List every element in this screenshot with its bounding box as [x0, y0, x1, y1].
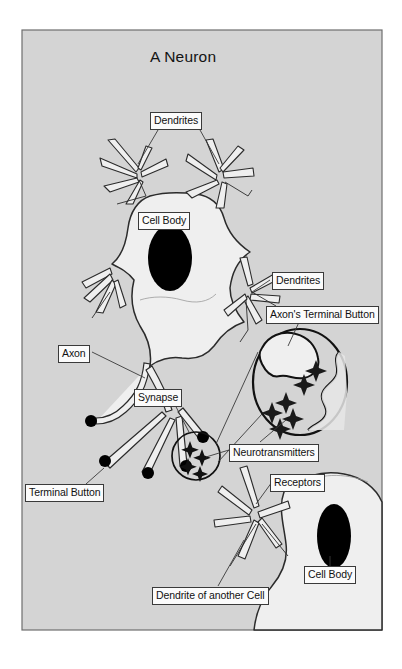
page-title: A Neuron — [150, 48, 216, 66]
other-nucleus — [317, 504, 351, 568]
label-cell-body-main: Cell Body — [138, 212, 190, 230]
terminal-button-dot — [142, 467, 154, 479]
label-dendrites-top: Dendrites — [150, 112, 202, 130]
terminal-button-dot — [99, 455, 111, 467]
label-cell-body-other: Cell Body — [304, 566, 356, 584]
neuron-diagram-figure: A Neuron Dendrites Cell Body Dendrites A… — [0, 0, 402, 669]
terminal-button-dot — [85, 415, 97, 427]
label-axons-terminal-button: Axon's Terminal Button — [266, 306, 379, 324]
main-nucleus — [148, 225, 192, 291]
label-terminal-button: Terminal Button — [25, 484, 104, 502]
label-dendrite-another-cell: Dendrite of another Cell — [152, 587, 269, 605]
label-synapse: Synapse — [134, 389, 182, 407]
label-receptors: Receptors — [270, 474, 325, 492]
label-axon: Axon — [58, 345, 90, 363]
label-neurotransmitters: Neurotransmitters — [229, 444, 319, 462]
label-dendrites-right: Dendrites — [272, 272, 324, 290]
